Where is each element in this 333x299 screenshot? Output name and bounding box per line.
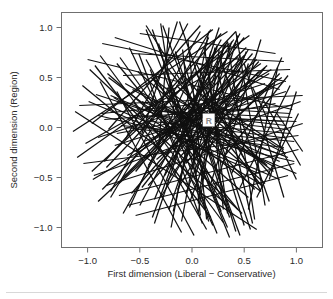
point-label-r: R [206,116,212,126]
x-tick-label: −0.5 [130,255,149,266]
y-axis-title: Second dimension (Region) [8,71,19,188]
y-tick-label: 0.5 [39,72,52,83]
x-tick-label: 0.5 [238,255,251,266]
y-tick-label: −0.5 [34,172,53,183]
chart-figure: −1.0−0.50.00.51.0 −1.0−0.50.00.51.0 R Fi… [0,0,333,299]
y-tick-label: 1.0 [39,22,52,33]
y-tick-label: 0.0 [39,122,52,133]
x-tick-label: −1.0 [78,255,97,266]
x-tick-label: 0.0 [185,255,198,266]
x-tick-label: 1.0 [290,255,303,266]
y-tick-label: −1.0 [34,222,53,233]
point-annotations: R [203,114,215,127]
x-axis-title: First dimension (Liberal − Conservative) [107,268,275,279]
dimension-scatter-plot: −1.0−0.50.00.51.0 −1.0−0.50.00.51.0 R Fi… [0,0,333,299]
